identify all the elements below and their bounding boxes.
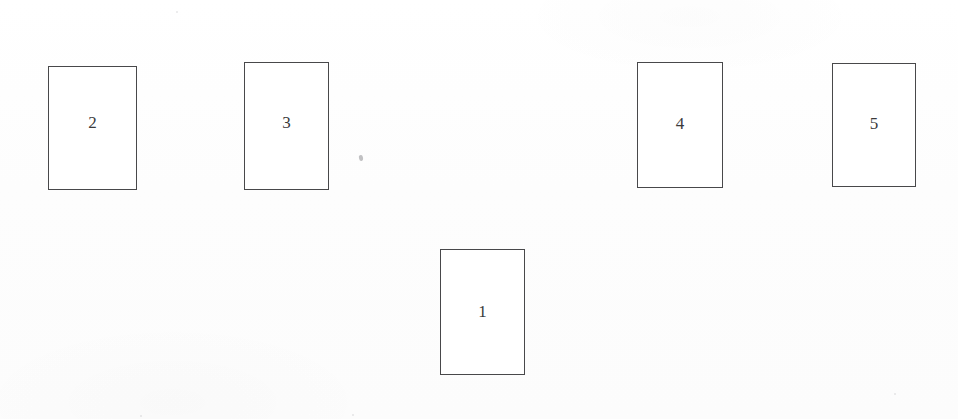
diagram-box-label: 1	[478, 303, 487, 320]
diagram-box-3[interactable]: 3	[244, 62, 329, 190]
diagram-canvas: 23451	[0, 0, 958, 419]
dust-speck	[140, 415, 142, 417]
diagram-box-4[interactable]: 4	[637, 62, 723, 188]
diagram-box-2[interactable]: 2	[48, 66, 137, 190]
diagram-box-label: 5	[870, 115, 879, 132]
dust-speck	[894, 393, 896, 395]
dust-speck	[352, 414, 354, 416]
diagram-box-1[interactable]: 1	[440, 249, 525, 375]
diagram-box-label: 4	[676, 115, 685, 132]
diagram-box-5[interactable]: 5	[832, 63, 916, 187]
diagram-box-label: 3	[282, 114, 291, 131]
ink-speck-icon	[358, 155, 363, 162]
dust-speck	[176, 11, 178, 13]
diagram-box-label: 2	[88, 114, 97, 131]
